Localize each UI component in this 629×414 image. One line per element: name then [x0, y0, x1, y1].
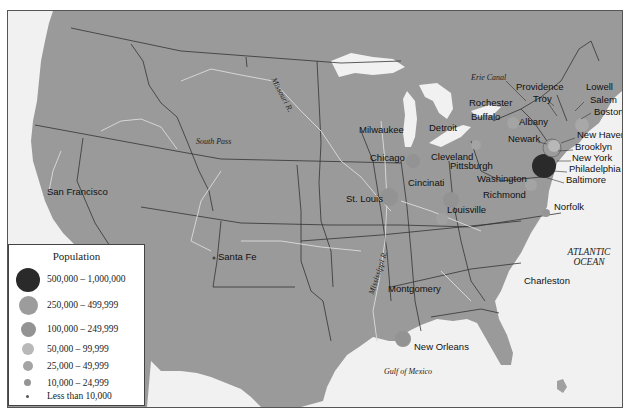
city-label-newark: Newark [508, 134, 540, 144]
city-label-rochester: Rochester [469, 98, 512, 108]
city-label-milwaukee: Milwaukee [359, 125, 404, 135]
city-label-new-haven: New Haven [577, 130, 623, 140]
legend-swatch-4 [22, 343, 34, 355]
legend-row-3: 100,000 – 249,999 [9, 322, 144, 342]
ocean-line-2: OCEAN [554, 257, 623, 267]
city-label-washington: Washington [477, 174, 527, 184]
legend-swatch-3 [21, 322, 36, 337]
legend-label-2: 250,000 – 499,999 [47, 300, 118, 310]
city-label-montgomery: Montgomery [388, 284, 441, 294]
legend-row-2: 250,000 – 499,999 [9, 297, 144, 317]
city-label-new-orleans: New Orleans [414, 342, 469, 352]
legend-swatch-7 [26, 395, 29, 398]
legend-label-4: 50,000 – 99,999 [47, 344, 109, 354]
city-label-santa-fe: Santa Fe [218, 252, 257, 262]
city-label-buffalo: Buffalo [471, 112, 500, 122]
legend-label-5: 25,000 – 49,999 [47, 361, 109, 371]
ocean-line-1: ATLANTIC [554, 247, 623, 257]
label-south-pass: South Pass [196, 138, 231, 146]
city-label-boston: Boston [594, 107, 623, 117]
city-label-detroit: Detroit [429, 123, 457, 133]
legend-label-1: 500,000 – 1,000,000 [47, 274, 125, 284]
city-label-baltimore: Baltimore [566, 175, 606, 185]
city-label-salem: Salem [590, 95, 617, 105]
legend-swatch-1 [16, 268, 40, 292]
legend-title: Population [9, 250, 144, 262]
bahamas [557, 379, 567, 393]
label-atlantic-ocean: ATLANTIC OCEAN [554, 247, 623, 268]
legend-label-3: 100,000 – 249,999 [47, 324, 118, 334]
city-label-albany: Albany [519, 117, 548, 127]
city-label-lowell: Lowell [586, 82, 613, 92]
city-label-new-york: New York [572, 153, 612, 163]
legend-swatch-5 [23, 361, 33, 371]
city-label-philadelphia: Philadelphia [569, 164, 621, 174]
city-label-cincinati: Cincinati [408, 178, 444, 188]
legend-box: Population 500,000 – 1,000,000 250,000 –… [8, 244, 145, 406]
legend-label-6: 10,000 – 24,999 [47, 378, 109, 388]
legend-row-4: 50,000 – 99,999 [9, 343, 144, 363]
city-label-richmond: Richmond [483, 190, 526, 200]
city-label-san-francisco: San Francisco [47, 187, 108, 197]
city-label-norfolk: Norfolk [554, 202, 584, 212]
legend-swatch-2 [19, 296, 38, 315]
city-label-providence: Providence [516, 82, 564, 92]
label-gulf-of-mexico: Gulf of Mexico [384, 368, 432, 376]
legend-row-1: 500,000 – 1,000,000 [9, 269, 144, 289]
city-label-brooklyn: Brooklyn [575, 142, 612, 152]
city-label-st-louis: St. Louis [346, 194, 383, 204]
city-label-charleston: Charleston [524, 276, 570, 286]
legend-label-7: Less than 10,000 [47, 391, 112, 401]
city-label-troy: Troy [533, 94, 552, 104]
label-erie-canal: Erie Canal [471, 74, 506, 82]
legend-swatch-6 [24, 379, 31, 386]
city-label-louisville: Louisville [447, 205, 486, 215]
city-label-chicago: Chicago [370, 153, 405, 163]
city-label-pittsburgh: Pittsburgh [450, 161, 493, 171]
legend-row-7: Less than 10,000 [9, 393, 144, 413]
